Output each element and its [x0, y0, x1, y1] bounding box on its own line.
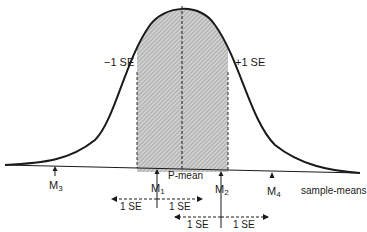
m2-label: M2 — [215, 184, 229, 197]
m1-base: M — [151, 182, 160, 194]
arrow-m4-icon — [270, 172, 275, 178]
sample-means-axis-label: sample-means — [301, 186, 367, 196]
m2-base: M — [215, 183, 224, 195]
arrow-m2-icon — [219, 171, 224, 228]
m4-sub: 4 — [276, 190, 280, 199]
m4-label: M4 — [267, 186, 281, 199]
m3-label: M3 — [49, 180, 63, 193]
m4-base: M — [267, 185, 276, 197]
m3-sub: 3 — [58, 184, 62, 193]
m2-right-se-label: 1 SE — [233, 220, 255, 230]
m1-sub: 1 — [160, 187, 164, 196]
m1-label: M1 — [151, 183, 165, 196]
m2-left-se-label: 1 SE — [187, 220, 209, 230]
plus-one-se-label: +1 SE — [235, 57, 265, 68]
m2-sub: 2 — [224, 188, 228, 197]
p-mean-label: P-mean — [168, 171, 203, 181]
arrow-m3-icon — [53, 166, 58, 176]
m3-base: M — [49, 179, 58, 191]
m1-right-se-label: 1 SE — [169, 202, 191, 212]
m1-left-se-label: 1 SE — [120, 202, 142, 212]
minus-one-se-label: −1 SE — [104, 57, 134, 68]
